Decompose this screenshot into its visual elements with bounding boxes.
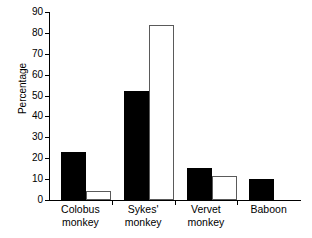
category-label-3: Baboon <box>237 203 300 216</box>
y-tick-label: 30 <box>32 132 43 142</box>
y-tick-label: 80 <box>32 28 43 38</box>
bar-filled-3 <box>249 179 274 200</box>
category-label-line2: monkey <box>175 216 238 229</box>
category-label-1: Sykes'monkey <box>112 203 175 229</box>
y-tick-mark <box>45 116 49 117</box>
category-label-2: Vervetmonkey <box>175 203 238 229</box>
category-label-0: Colobusmonkey <box>49 203 112 229</box>
y-tick-label: 70 <box>32 49 43 59</box>
bar-filled-2 <box>187 168 212 200</box>
y-tick-label: 20 <box>32 153 43 163</box>
y-tick-label: 60 <box>32 70 43 80</box>
bar-filled-1 <box>124 91 149 200</box>
y-axis-title: Percentage <box>17 34 28 144</box>
y-tick-label: 50 <box>32 91 43 101</box>
y-tick-mark <box>45 179 49 180</box>
category-label-line1: Baboon <box>251 203 287 215</box>
y-tick-mark <box>45 158 49 159</box>
y-tick-mark <box>45 12 49 13</box>
category-label-line1: Colobus <box>61 203 100 215</box>
category-label-line1: Vervet <box>191 203 221 215</box>
category-label-line2: monkey <box>49 216 112 229</box>
bar-chart: Percentage 0102030405060708090 Colobusmo… <box>0 0 312 238</box>
y-tick-label: 10 <box>32 174 43 184</box>
bar-open-2 <box>212 176 237 200</box>
y-tick-label: 90 <box>32 7 43 17</box>
y-tick-mark <box>45 75 49 76</box>
y-tick-label: 40 <box>32 111 43 121</box>
bars-group <box>50 12 301 200</box>
bar-filled-0 <box>61 152 86 200</box>
y-tick-label: 0 <box>37 195 43 205</box>
plot-area: 0102030405060708090 <box>49 12 300 200</box>
category-label-line1: Sykes' <box>128 203 159 215</box>
y-tick-mark <box>45 54 49 55</box>
y-tick-mark <box>45 96 49 97</box>
bar-open-0 <box>86 191 111 200</box>
y-tick-mark <box>45 137 49 138</box>
y-tick-mark <box>45 200 49 201</box>
bar-open-1 <box>149 25 174 200</box>
x-axis-category-labels: ColobusmonkeySykes'monkeyVervetmonkeyBab… <box>49 203 301 238</box>
y-tick-mark <box>45 33 49 34</box>
category-label-line2: monkey <box>112 216 175 229</box>
